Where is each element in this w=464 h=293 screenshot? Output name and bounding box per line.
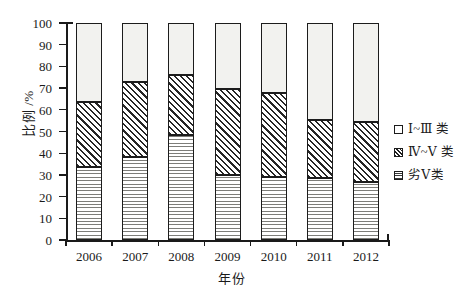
- y-tick-label: 20: [0, 190, 52, 203]
- legend-item-0: Ⅰ~Ⅲ 类: [394, 118, 464, 141]
- legend-swatch-diagonal-hatch: [394, 148, 403, 157]
- bar-segment-2008-0: [168, 135, 194, 240]
- bar-segment-2011-0: [307, 178, 333, 240]
- y-tick-mark: [59, 196, 66, 197]
- x-tick-mark: [388, 240, 389, 246]
- y-tick-mark: [59, 131, 66, 132]
- bar-segment-2006-0: [76, 167, 102, 240]
- bar-segment-2012-1: [353, 122, 379, 182]
- y-axis-line: [66, 22, 68, 241]
- x-tick-mark: [158, 240, 159, 246]
- y-tick-label: 80: [0, 60, 52, 73]
- x-tick-mark: [204, 240, 205, 246]
- y-tick-mark: [59, 153, 66, 154]
- y-tick-mark: [59, 66, 66, 67]
- bar-2011: [307, 23, 333, 240]
- y-tick-mark: [59, 218, 66, 219]
- bar-segment-2008-1: [168, 75, 194, 135]
- y-tick-label: 70: [0, 82, 52, 95]
- bar-segment-2009-0: [215, 175, 241, 240]
- bar-2008: [168, 23, 194, 240]
- bar-segment-2008-2: [168, 23, 194, 75]
- x-tick-mark: [111, 240, 112, 246]
- y-tick-label: 40: [0, 147, 52, 160]
- x-axis-title: 年份: [0, 268, 464, 287]
- bar-2012: [353, 23, 379, 240]
- bar-segment-2011-2: [307, 23, 333, 120]
- bar-segment-2010-2: [261, 23, 287, 93]
- stacked-bar-chart: 比例 /% 0102030405060708090100 20062007200…: [0, 0, 464, 293]
- y-tick-label: 90: [0, 38, 52, 51]
- y-tick-label: 50: [0, 125, 52, 138]
- bar-segment-2012-2: [353, 23, 379, 122]
- y-tick-mark: [59, 44, 66, 45]
- legend-swatch-dots: [394, 125, 403, 134]
- y-tick-mark: [59, 174, 66, 175]
- x-tick-mark: [250, 240, 251, 246]
- legend-swatch-horizontal-lines: [394, 171, 403, 180]
- y-tick-label: 0: [0, 234, 52, 247]
- chart-legend: Ⅰ~Ⅲ 类Ⅳ~Ⅴ 类劣Ⅴ类: [394, 118, 464, 187]
- bar-segment-2011-1: [307, 120, 333, 178]
- y-tick-label: 30: [0, 168, 52, 181]
- y-tick-mark: [59, 22, 66, 23]
- y-tick-mark: [59, 87, 66, 88]
- x-tick-mark: [342, 240, 343, 246]
- bar-segment-2006-2: [76, 23, 102, 102]
- bar-segment-2006-1: [76, 102, 102, 167]
- y-tick-label: 100: [0, 17, 52, 30]
- y-tick-mark: [59, 109, 66, 110]
- bar-segment-2007-0: [122, 157, 148, 240]
- legend-label-1: Ⅳ~Ⅴ 类: [408, 146, 454, 159]
- legend-item-2: 劣Ⅴ类: [394, 164, 464, 187]
- bar-segment-2007-1: [122, 82, 148, 157]
- legend-label-2: 劣Ⅴ类: [408, 169, 444, 182]
- y-tick-label: 10: [0, 212, 52, 225]
- x-tick-label-2012: 2012: [336, 249, 396, 265]
- bar-2007: [122, 23, 148, 240]
- y-tick-label: 60: [0, 103, 52, 116]
- legend-label-0: Ⅰ~Ⅲ 类: [408, 123, 449, 136]
- legend-item-1: Ⅳ~Ⅴ 类: [394, 141, 464, 164]
- x-tick-mark: [296, 240, 297, 246]
- bar-segment-2007-2: [122, 23, 148, 82]
- bar-segment-2010-1: [261, 93, 287, 177]
- bar-2009: [215, 23, 241, 240]
- x-tick-mark: [65, 240, 66, 246]
- x-axis-line: [66, 240, 389, 242]
- bar-segment-2009-1: [215, 89, 241, 175]
- y-axis-top-cap: [66, 22, 73, 24]
- bar-segment-2009-2: [215, 23, 241, 89]
- bar-2006: [76, 23, 102, 240]
- bar-segment-2010-0: [261, 177, 287, 240]
- bar-segment-2012-0: [353, 182, 379, 240]
- bar-2010: [261, 23, 287, 240]
